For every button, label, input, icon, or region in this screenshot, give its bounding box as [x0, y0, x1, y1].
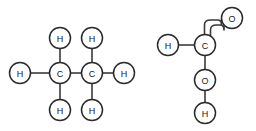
bond-double-R-C-R-O-double [211, 23, 225, 36]
atom-h-L-H-bot1: H [50, 100, 71, 121]
molecular-structures-svg: HCCHHHHHHCOOH [0, 0, 256, 131]
atom-o-R-O-single: O [195, 70, 216, 91]
atom-h-L-H-top1: H [50, 28, 71, 49]
molecule-diagram-canvas: HCCHHHHHHCOOH [0, 0, 256, 131]
atom-c-L-C2: C [82, 63, 103, 84]
atom-label: H [121, 69, 128, 79]
atom-c-L-C1: C [50, 63, 71, 84]
atom-label: H [89, 34, 96, 44]
atom-h-R-H-left: H [158, 35, 179, 56]
atom-h-L-H-top2: H [82, 28, 103, 49]
atom-label: C [57, 69, 64, 79]
atom-label: H [89, 106, 96, 116]
atom-label: H [202, 109, 209, 119]
atom-layer: HCCHHHHHHCOOH [10, 8, 243, 124]
atom-h-R-H-bottom: H [195, 103, 216, 124]
atom-h-L-H-bot2: H [82, 100, 103, 121]
atom-c-R-C: C [195, 35, 216, 56]
atom-label: O [228, 14, 235, 24]
atom-o-R-O-double: O [222, 8, 243, 29]
atom-label: H [57, 106, 64, 116]
bond-double-R-C-R-O-double [205, 19, 222, 36]
atom-label: H [165, 41, 172, 51]
atom-h-L-H-right: H [114, 63, 135, 84]
atom-h-L-H-left: H [10, 63, 31, 84]
atom-label: H [57, 34, 64, 44]
atom-label: C [89, 69, 96, 79]
atom-label: H [17, 69, 24, 79]
atom-label: C [202, 41, 209, 51]
atom-label: O [201, 76, 208, 86]
